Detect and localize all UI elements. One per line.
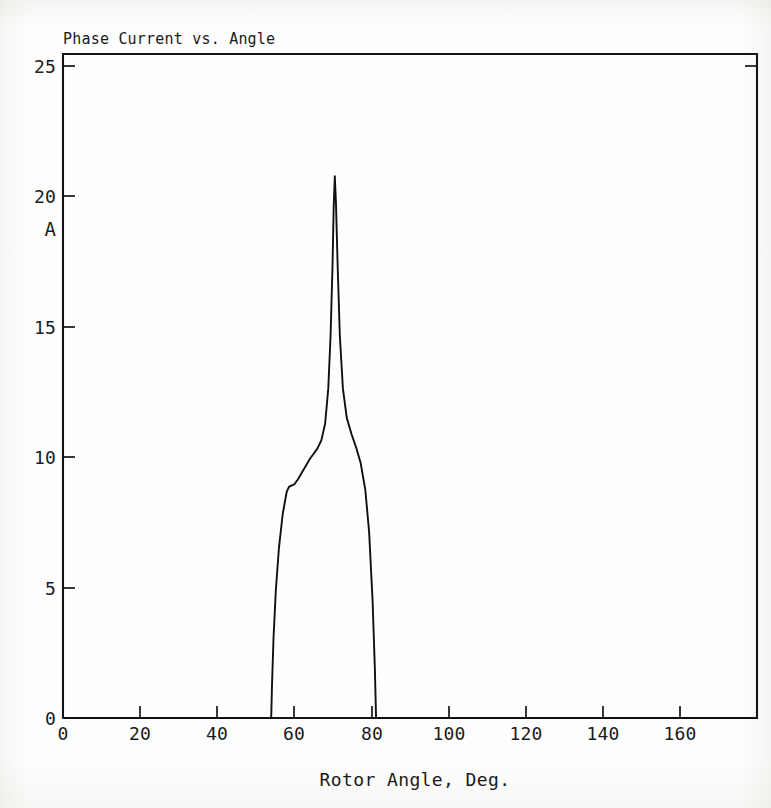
x-axis-title: Rotor Angle, Deg. xyxy=(319,769,510,790)
y-tick-label-10: 10 xyxy=(34,447,56,468)
figure-root: Phase Current vs. Angle 0 20 40 60 80 10… xyxy=(0,0,771,808)
x-tick-label-20: 20 xyxy=(129,723,151,744)
x-tick-label-40: 40 xyxy=(206,723,228,744)
x-tick-label-160: 160 xyxy=(663,723,696,744)
x-tick-label-80: 80 xyxy=(361,723,383,744)
x-tick-label-120: 120 xyxy=(509,723,542,744)
chart-title: Phase Current vs. Angle xyxy=(63,30,275,48)
y-tick-label-0: 0 xyxy=(45,708,56,729)
y-axis-tick-labels: 0 5 10 15 20 25 xyxy=(34,56,56,729)
x-tick-label-0: 0 xyxy=(57,723,68,744)
y-tick-label-20: 20 xyxy=(34,186,56,207)
plot-frame xyxy=(63,54,757,718)
y-tick-label-15: 15 xyxy=(34,317,56,338)
x-axis-tick-labels: 0 20 40 60 80 100 120 140 160 xyxy=(57,723,696,744)
x-tick-label-140: 140 xyxy=(586,723,619,744)
y-axis-ticks xyxy=(63,66,757,718)
y-axis-unit-label: A xyxy=(45,218,57,240)
phase-current-curve xyxy=(63,176,757,718)
x-axis-ticks xyxy=(63,706,680,718)
x-tick-label-60: 60 xyxy=(283,723,305,744)
x-tick-label-100: 100 xyxy=(432,723,465,744)
y-tick-label-25: 25 xyxy=(34,56,56,77)
y-tick-label-5: 5 xyxy=(45,578,56,599)
phase-current-chart: Phase Current vs. Angle 0 20 40 60 80 10… xyxy=(0,0,771,808)
